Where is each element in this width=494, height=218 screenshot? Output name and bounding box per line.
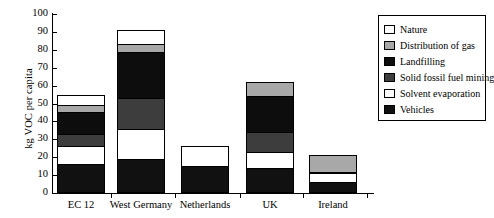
legend-label: Solvent evaporation (400, 88, 480, 99)
legend-item: Solid fossil fuel mining (384, 69, 485, 85)
x-axis-line (52, 193, 374, 194)
bar-segment-vehicles (57, 164, 105, 193)
bar-ec-12 (57, 14, 105, 193)
x-axis-label: Ireland (291, 199, 375, 210)
bar-segment-distribution-of-gas (309, 155, 357, 171)
bar-netherlands (181, 14, 229, 193)
x-axis-tick (111, 193, 112, 198)
y-axis-tick-label-text: 80 (4, 44, 48, 54)
legend-item: Solvent evaporation (384, 85, 485, 101)
bar-segment-nature (57, 95, 105, 106)
bar-segment-solid-fossil-fuel-mining (117, 98, 165, 128)
y-axis-tick-label-text: 30 (4, 133, 48, 143)
bar-segment-solvent-evaporation (57, 146, 105, 164)
bar-segment-distribution-of-gas (246, 82, 294, 96)
y-axis-tick-label-text: 50 (4, 98, 48, 108)
x-axis-tick (303, 193, 304, 198)
legend-items: NatureDistribution of gasLandfillingSoli… (384, 21, 485, 117)
y-axis-tick-label-text: 0 (4, 187, 48, 197)
bar-segment-solvent-evaporation (117, 129, 165, 159)
bar-segment-landfilling (117, 52, 165, 99)
bar-uk (246, 14, 294, 193)
legend-swatch-icon (384, 73, 395, 82)
bar-segment-solid-fossil-fuel-mining (309, 172, 357, 174)
y-axis-tick-label-text: 20 (4, 151, 48, 161)
x-axis-tick (240, 193, 241, 198)
y-axis-tick-label-text: 10 (4, 169, 48, 179)
legend-label: Solid fossil fuel mining (400, 72, 494, 83)
y-axis-tick-label-text: 70 (4, 62, 48, 72)
legend: NatureDistribution of gasLandfillingSoli… (378, 15, 486, 121)
y-axis-tick-label-text: 60 (4, 80, 48, 90)
x-axis-tick (175, 193, 176, 198)
bar-segment-solid-fossil-fuel-mining (57, 134, 105, 147)
y-axis-tick-label-text: 90 (4, 26, 48, 36)
bar-segment-landfilling (57, 112, 105, 133)
bar-segment-vehicles (246, 168, 294, 193)
legend-swatch-icon (384, 57, 395, 66)
bar-segment-vehicles (309, 182, 357, 193)
y-axis-tick-label-text: 100 (4, 8, 48, 18)
legend-swatch-icon (384, 25, 395, 34)
legend-swatch-icon (384, 105, 395, 114)
bar-segment-solvent-evaporation (246, 152, 294, 168)
legend-label: Landfilling (400, 56, 445, 67)
bar-segment-solvent-evaporation (309, 173, 357, 182)
bar-segment-solvent-evaporation (181, 146, 229, 166)
bar-segment-vehicles (117, 159, 165, 193)
legend-item: Distribution of gas (384, 37, 485, 53)
legend-label: Distribution of gas (400, 40, 475, 51)
legend-swatch-icon (384, 41, 395, 50)
legend-label: Nature (400, 24, 427, 35)
legend-item: Vehicles (384, 101, 485, 117)
y-axis-tick-label-text: 40 (4, 115, 48, 125)
bar-segment-landfilling (246, 96, 294, 132)
y-axis-tick (52, 193, 57, 194)
legend-item: Landfilling (384, 53, 485, 69)
bar-ireland (309, 14, 357, 193)
x-axis-tick (367, 193, 368, 198)
bar-segment-distribution-of-gas (57, 105, 105, 112)
legend-swatch-icon (384, 89, 395, 98)
bar-segment-vehicles (181, 166, 229, 193)
bar-segment-nature (117, 30, 165, 44)
legend-item: Nature (384, 21, 485, 37)
bar-segment-solid-fossil-fuel-mining (246, 132, 294, 152)
legend-label: Vehicles (400, 104, 434, 115)
bar-segment-distribution-of-gas (117, 44, 165, 51)
bar-west-germany (117, 14, 165, 193)
